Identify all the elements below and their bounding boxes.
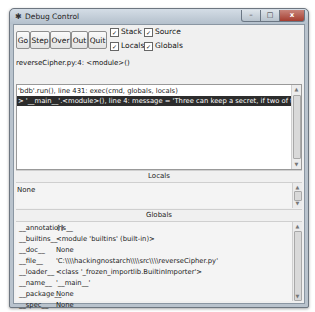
source-checkbox[interactable]: ✓Source: [144, 27, 181, 37]
stack-scrollbar[interactable]: ▲ ▼: [291, 85, 301, 169]
global-name: __package__: [19, 289, 61, 300]
global-name: __spec__: [19, 300, 48, 311]
global-name: __builtins__: [19, 234, 57, 245]
global-name: __annotations__: [19, 223, 73, 234]
globals-header: Globals: [16, 209, 302, 222]
minimize-button[interactable]: –: [241, 10, 261, 22]
globals-panel: __annotations__{} __builtins__<module 'b…: [16, 222, 302, 301]
locals-value: None: [17, 186, 35, 194]
globals-row: __doc__None: [16, 245, 292, 256]
locals-panel: None ▲ ▼: [16, 183, 302, 208]
globals-row: __name__'__main__': [16, 278, 292, 289]
globals-checkbox[interactable]: ✓Globals: [144, 41, 183, 51]
stack-row-selected[interactable]: > '__main__'.<module>(), line 4: message…: [17, 96, 291, 106]
over-button[interactable]: Over: [50, 31, 71, 49]
step-button[interactable]: Step: [30, 31, 50, 49]
global-value: None: [56, 300, 74, 311]
global-value: None: [56, 245, 74, 256]
close-icon: x: [290, 11, 295, 19]
maximize-button[interactable]: □: [260, 10, 280, 22]
scroll-up-icon[interactable]: ▲: [293, 222, 302, 231]
global-value: 'C:\\\\hackingnostarch\\\\src\\\\reverse…: [56, 256, 218, 267]
globals-row: __spec__None: [16, 300, 292, 311]
global-name: __loader__: [19, 267, 54, 278]
maximize-icon: □: [267, 11, 274, 19]
scroll-down-icon[interactable]: ▼: [293, 292, 302, 301]
locals-scrollbar[interactable]: ▲ ▼: [292, 183, 302, 208]
checkbox-check-icon: ✓: [110, 42, 119, 51]
quit-button[interactable]: Quit: [88, 31, 107, 49]
globals-row: __builtins__<module 'builtins' (built-in…: [16, 234, 292, 245]
title-bar[interactable]: ✱ Debug Control – □ x: [10, 9, 308, 24]
scroll-up-icon[interactable]: ▲: [292, 85, 301, 94]
minimize-icon: –: [249, 11, 253, 19]
stack-listbox[interactable]: 'bdb'.run(), line 431: exec(cmd, globals…: [16, 84, 302, 170]
toolbar: Go Step Over Out Quit ✓Stack ✓Source ✓Lo…: [14, 25, 304, 55]
globals-row: __file__'C:\\\\hackingnostarch\\\\src\\\…: [16, 256, 292, 267]
out-button[interactable]: Out: [71, 31, 88, 49]
stack-checkbox-label: Stack: [121, 27, 142, 36]
status-label: reverseCipher.py:4: <module>(): [16, 59, 130, 67]
locals-checkbox[interactable]: ✓Locals: [110, 41, 144, 51]
go-button[interactable]: Go: [16, 31, 30, 49]
scroll-thumb[interactable]: [293, 95, 301, 159]
client-area: Go Step Over Out Quit ✓Stack ✓Source ✓Lo…: [13, 24, 305, 304]
global-value: None: [56, 289, 74, 300]
global-name: __file__: [19, 256, 43, 267]
checkbox-check-icon: ✓: [144, 28, 153, 37]
global-value: <class '_frozen_importlib.BuiltinImporte…: [56, 267, 202, 278]
scroll-thumb[interactable]: [294, 231, 302, 301]
bug-icon: ✱: [15, 12, 23, 21]
scroll-down-icon[interactable]: ▼: [293, 199, 302, 208]
stack-checkbox[interactable]: ✓Stack: [110, 27, 142, 37]
global-value: '__main__': [56, 278, 90, 289]
global-name: __name__: [19, 278, 52, 289]
globals-row: __annotations__{}: [16, 223, 292, 234]
locals-checkbox-label: Locals: [121, 41, 144, 50]
globals-row: __package__None: [16, 289, 292, 300]
stack-row[interactable]: 'bdb'.run(), line 431: exec(cmd, globals…: [17, 86, 291, 96]
scroll-down-icon[interactable]: ▼: [292, 160, 301, 169]
globals-scrollbar[interactable]: ▲ ▼: [292, 222, 302, 301]
window-title: Debug Control: [25, 12, 79, 21]
debug-control-window: ✱ Debug Control – □ x Go Step Over Out Q…: [9, 8, 309, 308]
globals-checkbox-label: Globals: [155, 41, 183, 50]
global-value: {}: [56, 223, 65, 234]
global-value: <module 'builtins' (built-in)>: [56, 234, 155, 245]
locals-header: Locals: [16, 170, 302, 183]
close-button[interactable]: x: [279, 10, 305, 22]
checkbox-check-icon: ✓: [144, 42, 153, 51]
globals-row: __loader__<class '_frozen_importlib.Buil…: [16, 267, 292, 278]
checkbox-check-icon: ✓: [110, 28, 119, 37]
source-checkbox-label: Source: [155, 27, 181, 36]
global-name: __doc__: [19, 245, 45, 256]
